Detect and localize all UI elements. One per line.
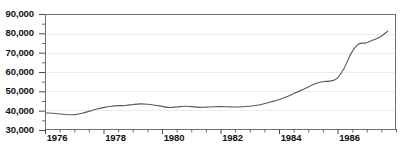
series-path: [46, 31, 388, 115]
y-tick-label: 50,000: [6, 87, 34, 97]
y-tick-label: 60,000: [6, 67, 34, 77]
x-tick-label: 1980: [164, 133, 185, 143]
x-tick-label: 1982: [222, 133, 243, 143]
x-tick-label: 1978: [105, 133, 126, 143]
line-chart: 30,00040,00050,00060,00070,00080,00090,0…: [0, 0, 409, 157]
y-tick-label: 40,000: [6, 106, 34, 116]
x-tick-label: 1984: [281, 133, 302, 143]
data-series-line: [46, 15, 395, 129]
x-tick-label: 1986: [339, 133, 360, 143]
y-tick-label: 70,000: [6, 48, 34, 58]
y-tick-label: 80,000: [6, 29, 34, 39]
y-tick-label: 90,000: [6, 9, 34, 19]
x-tick-label: 1976: [47, 133, 68, 143]
plot-area: [45, 14, 396, 130]
x-axis-tick-labels: 197619781980198219841986: [0, 133, 409, 153]
